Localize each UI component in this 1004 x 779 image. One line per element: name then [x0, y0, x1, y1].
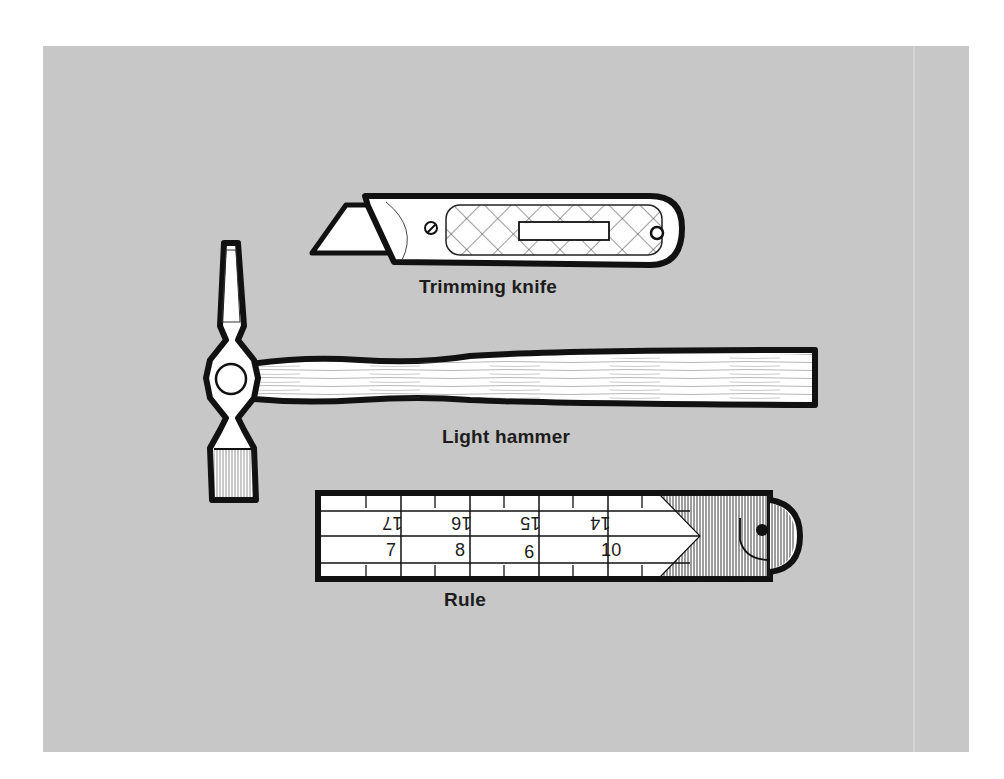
tools-illustration [0, 0, 1004, 779]
rule-number-bottom: 7 [386, 540, 396, 561]
rule-number-top: 15 [520, 512, 540, 533]
light-hammer-caption: Light hammer [442, 426, 570, 448]
rule-number-bottom: 10 [601, 540, 621, 561]
trimming-knife-icon [312, 196, 682, 265]
folding-rule-icon [318, 493, 800, 579]
rule-number-bottom: 8 [455, 540, 465, 561]
rule-number-top: 16 [451, 512, 471, 533]
rule-number-top: 14 [590, 512, 610, 533]
rule-number-top: 17 [382, 512, 402, 533]
rule-caption: Rule [444, 589, 486, 611]
rule-number-bottom: 9 [524, 540, 534, 561]
trimming-knife-caption: Trimming knife [419, 276, 557, 298]
